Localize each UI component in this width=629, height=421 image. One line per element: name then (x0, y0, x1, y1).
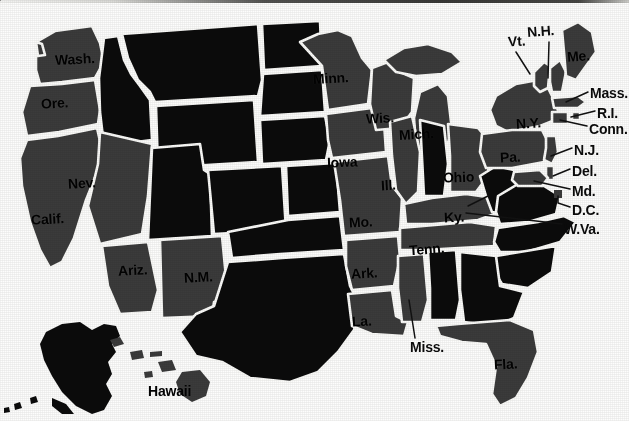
state-label-oregon: Ore. (41, 95, 69, 110)
state-label-new-jersey: N.J. (574, 143, 599, 157)
state-label-west-virginia: W.Va. (564, 222, 600, 236)
state-new-jersey (544, 136, 558, 164)
state-label-louisiana: La. (352, 313, 372, 328)
us-map-figure: Wash.Ore.Nev.Calif.Ariz.N.M.Minn.Wis.Mic… (0, 0, 629, 421)
state-label-delaware: Del. (572, 164, 597, 178)
state-label-california: Calif. (31, 211, 65, 227)
state-label-tennessee: Tenn. (409, 241, 445, 257)
state-label-iowa: Iowa (327, 154, 358, 169)
state-label-massachusetts: Mass. (590, 86, 628, 100)
state-label-florida: Fla. (494, 356, 518, 371)
state-label-washington: Wash. (55, 51, 95, 67)
state-label-minnesota: Minn. (313, 70, 349, 86)
state-label-hawaii: Hawaii (148, 384, 191, 398)
state-kansas (286, 163, 340, 216)
state-label-illinois: Ill. (381, 178, 396, 193)
state-label-district-of-columbia: D.C. (572, 203, 599, 217)
state-alabama (428, 250, 460, 320)
state-label-wisconsin: Wis. (366, 110, 395, 125)
state-label-mississippi: Miss. (410, 340, 444, 354)
state-label-maine: Me. (567, 48, 591, 64)
leader-vermont (516, 52, 530, 74)
state-label-ohio: Ohio (443, 169, 475, 184)
state-label-pennsylvania: Pa. (500, 149, 521, 164)
state-florida (436, 320, 538, 406)
state-alaska (4, 322, 120, 414)
state-label-new-mexico: N.M. (184, 269, 213, 284)
state-label-rhode-island: R.I. (597, 106, 618, 120)
state-label-maryland: Md. (572, 184, 596, 198)
state-massachusetts (552, 96, 586, 108)
hawaii-island-oahu (130, 350, 144, 360)
state-label-kentucky: Ky. (444, 209, 465, 224)
state-arkansas (346, 236, 400, 290)
state-utah (148, 144, 212, 240)
state-label-new-york: N.Y. (516, 115, 542, 130)
state-michigan-up (384, 44, 462, 76)
state-nebraska (260, 116, 330, 164)
state-label-missouri: Mo. (349, 214, 373, 229)
state-label-vermont: Vt. (508, 33, 526, 48)
leader-delaware (553, 169, 570, 176)
state-label-nevada: Nev. (68, 175, 96, 190)
state-label-michigan: Mich. (399, 126, 434, 142)
state-label-arkansas: Ark. (351, 265, 378, 280)
hawaii-island-maui (158, 360, 176, 372)
hawaii-island-lanai (144, 371, 153, 378)
state-label-connecticut: Conn. (589, 122, 628, 136)
state-new-hampshire (550, 60, 566, 92)
leader-new-hampshire (548, 42, 549, 78)
state-label-arizona: Ariz. (118, 262, 148, 278)
state-mississippi (398, 254, 428, 322)
state-connecticut (552, 112, 568, 124)
hawaii-island-molokai (150, 351, 162, 357)
state-label-new-hampshire: N.H. (527, 23, 555, 39)
